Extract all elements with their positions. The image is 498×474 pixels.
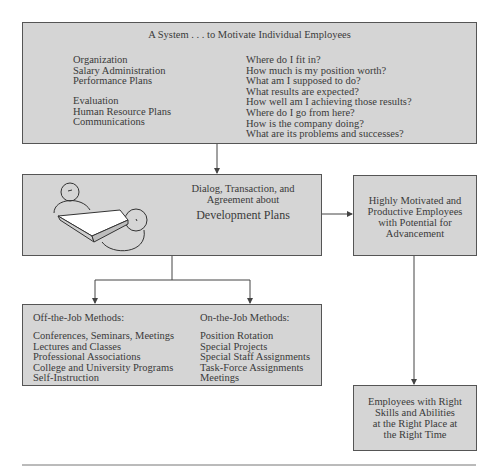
off-job-methods-list: Conferences, Seminars, Meetings Lectures…: [33, 331, 174, 384]
method-item: Self-Instruction: [33, 373, 174, 384]
system-components-list-1: Organization Salary Administration Perfo…: [73, 55, 165, 87]
component-item: Communications: [73, 117, 171, 128]
motivated-employees-text: Highly Motivated and Productive Employee…: [353, 195, 477, 239]
dialog-text: Dialog, Transaction, and Agreement about: [178, 183, 308, 205]
right-skills-text: Employees with Right Skills and Abilitie…: [353, 396, 477, 440]
method-item: Conferences, Seminars, Meetings: [33, 331, 174, 342]
text-line: Employees with Right: [353, 396, 477, 407]
question-item: Where do I fit in?: [246, 55, 412, 66]
text-line: at the Right Place at: [353, 418, 477, 429]
development-plans-heading: Development Plans: [178, 210, 308, 221]
system-title: A System . . . to Motivate Individual Em…: [22, 29, 477, 40]
method-item: Position Rotation: [200, 331, 310, 342]
system-components-list-2: Evaluation Human Resource Plans Communic…: [73, 96, 171, 128]
dialog-line-1: Dialog, Transaction, and: [178, 183, 308, 194]
on-job-methods-list: Position Rotation Special Projects Speci…: [200, 331, 310, 384]
text-line: with Potential for: [353, 217, 477, 228]
text-line: the Right Time: [353, 429, 477, 440]
component-item: Evaluation: [73, 96, 171, 107]
question-item: Where do I go from here?: [246, 108, 412, 119]
on-job-heading: On-the-Job Methods:: [200, 312, 290, 323]
text-line: Advancement: [353, 228, 477, 239]
component-item: Organization: [73, 55, 165, 66]
method-item: Meetings: [200, 373, 310, 384]
two-people-at-table-icon: [40, 176, 165, 254]
text-line: Skills and Abilities: [353, 407, 477, 418]
text-line: Productive Employees: [353, 206, 477, 217]
off-job-heading: Off-the-Job Methods:: [33, 312, 124, 323]
question-item: What are its problems and successes?: [246, 129, 412, 140]
component-item: Performance Plans: [73, 76, 165, 87]
dialog-line-2: Agreement about: [178, 194, 308, 205]
employee-questions-list: Where do I fit in? How much is my positi…: [246, 55, 412, 140]
text-line: Highly Motivated and: [353, 195, 477, 206]
